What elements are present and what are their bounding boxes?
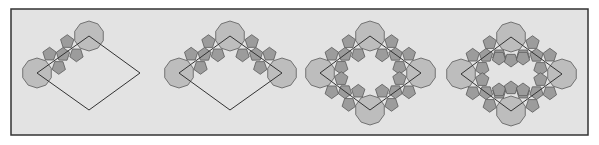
penrose-tiling-diagram <box>0 0 599 145</box>
